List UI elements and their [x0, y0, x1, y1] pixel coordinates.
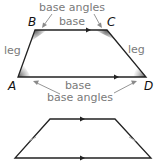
vertex-label-c: C — [107, 15, 116, 29]
isosceles-trapezoid — [15, 119, 151, 158]
angle-c-shade — [95, 30, 115, 40]
vertex-label-a: A — [7, 79, 16, 93]
parallel-arrow-icon — [114, 75, 119, 80]
pointer-arrow-icon — [44, 14, 52, 25]
vertex-label-b: B — [28, 15, 36, 29]
vertex-label-d: D — [144, 79, 153, 93]
label-top-base: base — [59, 15, 85, 28]
label-right-leg: leg — [128, 43, 145, 56]
parallel-arrow-icon — [80, 117, 85, 122]
parallel-arrow-icon — [86, 28, 91, 33]
trapezoid-diagram: B C A D base angles base leg leg base ba… — [0, 0, 155, 165]
parallel-arrow-icon — [80, 156, 85, 161]
pointer-arrow-icon — [114, 83, 133, 93]
label-top-base-angles: base angles — [39, 1, 105, 14]
pointer-arrow-icon — [94, 14, 100, 25]
label-left-leg: leg — [4, 44, 21, 57]
trapezoid-abcd — [18, 30, 146, 77]
